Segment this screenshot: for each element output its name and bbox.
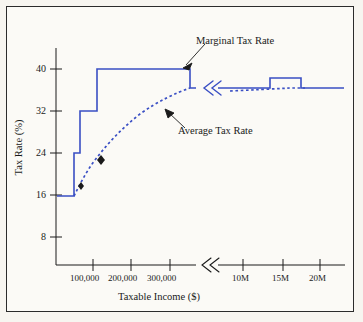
y-tick-label-8: 8 [28,232,46,242]
annotation-average-tax-rate: Average Tax Rate [178,126,253,137]
series-average-tax-rate [74,88,305,196]
x-tick-label-15m: 15M [272,274,289,283]
y-tick-label-40: 40 [28,64,46,74]
y-tick-label-16: 16 [28,190,46,200]
figure-container: 40 32 24 16 8 Tax Rate (%) 100,000 200,0… [0,0,363,322]
annotation-marginal-tax-rate: Marginal Tax Rate [196,36,274,47]
marginal-step-left [57,69,196,196]
x-tick-label-200000: 200,000 [108,274,137,283]
y-tick-label-24: 24 [28,148,46,158]
y-tick-label-32: 32 [28,106,46,116]
x-tick-label-100000: 100,000 [70,274,99,283]
y-axis-title: Tax Rate (%) [13,108,24,188]
average-curve-markers [78,155,105,190]
average-marker-1 [78,182,84,190]
x-tick-label-20m: 20M [309,274,326,283]
average-curve-left [74,88,190,196]
x-axis-break-icon [202,258,219,272]
x-axis-title: Taxable Income ($) [118,292,200,303]
x-tick-label-10m: 10M [232,274,249,283]
marginal-step-right [218,78,344,88]
annotation-arrows [165,44,205,128]
marginal-arrow-line [186,44,205,65]
average-marker-2 [97,155,105,165]
x-tick-label-300000: 300,000 [147,274,176,283]
